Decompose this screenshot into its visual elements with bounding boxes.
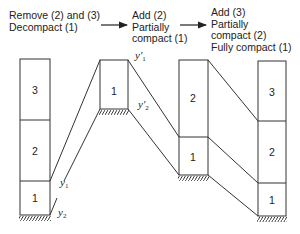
- layer-label: 1: [32, 192, 38, 204]
- y2-prime-label: y'2: [137, 98, 149, 112]
- y1-prime-label: y'1: [134, 49, 146, 63]
- layer-label: 2: [269, 146, 275, 158]
- y2-label: y2: [57, 206, 67, 220]
- compaction-diagram: 3 2 1 1 2 1 3 2 1 y1 y2 y'1 y'2: [0, 0, 300, 234]
- layer-label: 1: [269, 194, 275, 206]
- layer-label: 1: [111, 85, 117, 97]
- layer-label: 3: [32, 84, 38, 96]
- layer-label: 2: [32, 145, 38, 157]
- ground-hatch: [99, 110, 129, 115]
- layer-label: 3: [269, 86, 275, 98]
- connector-lines: [50, 60, 258, 216]
- layer-label: 1: [190, 151, 196, 163]
- y1-label: y1: [59, 176, 69, 190]
- ground-hatch: [19, 216, 51, 221]
- column-4: [258, 61, 286, 216]
- ground-hatch: [178, 176, 209, 181]
- ground-hatch: [257, 217, 287, 222]
- layer-label: 2: [190, 92, 196, 104]
